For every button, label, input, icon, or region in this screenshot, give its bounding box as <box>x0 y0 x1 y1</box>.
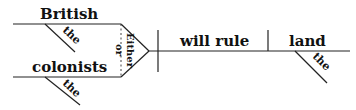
subject-word-colonists: colonists <box>32 58 107 76</box>
sentence-diagram: British colonists will rule land the the… <box>0 0 356 110</box>
conjunction-or: or <box>114 44 125 57</box>
modifier-word-colonists: the <box>60 77 84 100</box>
conjunction-either: Either <box>125 33 136 69</box>
subject-word-british: British <box>40 5 98 23</box>
verb-word: will rule <box>179 32 249 50</box>
modifier-word-british: the <box>60 24 84 47</box>
object-word: land <box>289 32 326 50</box>
